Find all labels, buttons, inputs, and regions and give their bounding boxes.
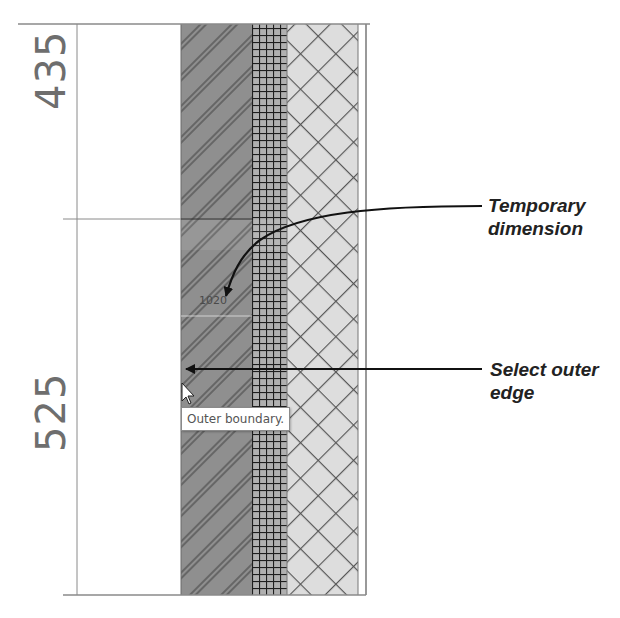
dimension-label-lower[interactable]: 525 [28,373,74,452]
callout-select-outer-edge: Select outer edge [490,358,599,404]
drawing-canvas[interactable] [0,0,620,618]
tooltip: Outer boundary. [181,407,290,431]
wall-layer-finish[interactable] [358,24,366,595]
callout-line: Select outer [490,358,599,381]
callout-line: edge [490,381,599,404]
temporary-dimension-value[interactable]: 1020 [199,294,227,307]
wall-layer-grid[interactable] [252,24,287,595]
wall-layer-insulation[interactable] [287,24,358,595]
callout-temporary-dimension: Temporary dimension [488,194,586,240]
callout-line: Temporary [488,194,586,217]
dimension-label-upper[interactable]: 435 [28,31,74,110]
callout-line: dimension [488,217,586,240]
wall-layer-masonry[interactable] [181,24,252,595]
